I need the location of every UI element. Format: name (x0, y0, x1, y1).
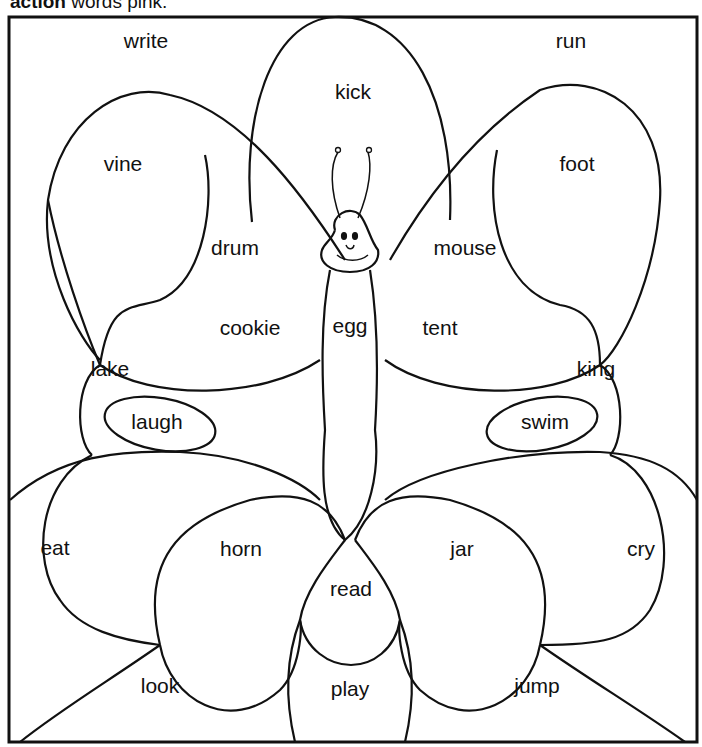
word-foot: foot (559, 152, 594, 176)
word-horn: horn (220, 537, 262, 561)
word-play: play (331, 677, 370, 701)
top-petal (249, 17, 450, 222)
word-cookie: cookie (220, 316, 281, 340)
word-egg: egg (332, 314, 367, 338)
word-laugh: laugh (131, 410, 182, 434)
word-write: write (124, 29, 168, 53)
word-king: king (577, 357, 616, 381)
word-read: read (330, 577, 372, 601)
word-vine: vine (104, 152, 143, 176)
word-cry: cry (627, 537, 655, 561)
word-lake: lake (91, 357, 130, 381)
word-swim: swim (521, 410, 569, 434)
word-kick: kick (335, 80, 371, 104)
word-eat: eat (40, 536, 69, 560)
word-jar: jar (450, 537, 473, 561)
word-drum: drum (211, 236, 259, 260)
word-look: look (141, 674, 180, 698)
butterfly-head (321, 211, 378, 272)
word-mouse: mouse (433, 236, 496, 260)
word-jump: jump (514, 674, 560, 698)
word-run: run (556, 29, 586, 53)
word-tent: tent (422, 316, 457, 340)
butterfly-body (323, 270, 377, 540)
